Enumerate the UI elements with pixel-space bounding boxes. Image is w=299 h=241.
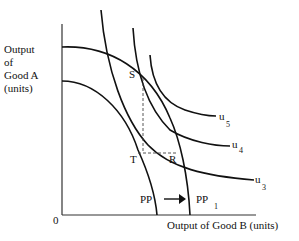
shift-arrow-icon bbox=[164, 194, 186, 204]
u5-label: u 5 bbox=[219, 110, 230, 129]
u4-label: u 4 bbox=[232, 138, 243, 155]
u4-curve bbox=[133, 28, 230, 146]
svg-text:4: 4 bbox=[239, 146, 243, 155]
x-axis-label: Output of Good B (units) bbox=[167, 219, 279, 232]
u3-curve bbox=[101, 10, 254, 180]
svg-text:1: 1 bbox=[214, 202, 218, 211]
svg-text:u: u bbox=[232, 138, 238, 150]
svg-text:u: u bbox=[219, 110, 225, 122]
svg-text:5: 5 bbox=[226, 120, 230, 129]
pp-label: PP bbox=[140, 193, 152, 205]
pp1-label: PP 1 bbox=[196, 193, 218, 211]
svg-text:PP: PP bbox=[196, 193, 208, 205]
u3-label: u 3 bbox=[255, 173, 266, 192]
u5-curve bbox=[150, 55, 216, 116]
y-axis-label-line2: of bbox=[4, 56, 14, 68]
y-axis-label-line4: (units) bbox=[4, 82, 33, 95]
point-t-label: T bbox=[130, 153, 137, 165]
y-axis-label-line1: Output bbox=[4, 43, 35, 55]
point-s-label: S bbox=[129, 68, 135, 80]
point-r-label: R bbox=[169, 153, 177, 165]
svg-text:u: u bbox=[255, 173, 261, 185]
origin-label: 0 bbox=[53, 214, 59, 226]
diagram-canvas: Output of Good A (units) 0 Output of Goo… bbox=[0, 0, 299, 241]
svg-text:3: 3 bbox=[262, 183, 266, 192]
y-axis-label-line3: Good A bbox=[4, 69, 39, 81]
